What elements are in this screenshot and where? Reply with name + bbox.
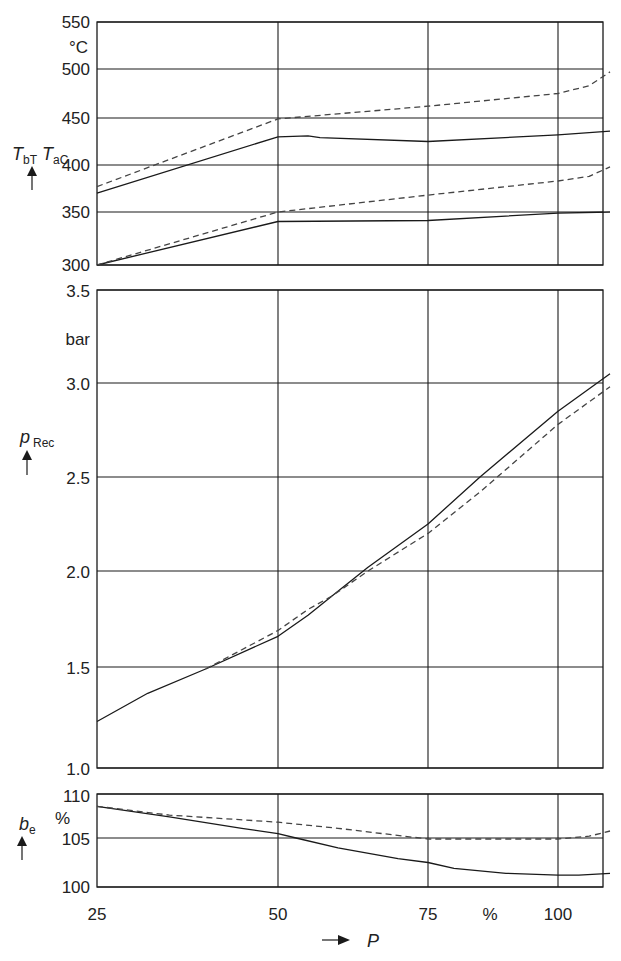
pressure-unit-label: bar (65, 330, 90, 349)
series-line-solid (97, 806, 610, 875)
be-axis-label: be (19, 814, 36, 837)
series-line-dashed (206, 387, 610, 669)
pressure-panel: 3.5 bar 3.0 2.5 2.0 1.5 1.0 pRec (19, 282, 610, 779)
y-tick-300: 300 (62, 256, 90, 275)
arrow-up-icon (17, 836, 27, 860)
temp-unit-label: °C (69, 38, 88, 57)
x-tick-75: 75 (419, 905, 438, 924)
y-tick-350: 350 (62, 203, 90, 222)
pressure-plot-area (97, 290, 610, 768)
y-tick-450: 450 (62, 109, 90, 128)
y-tick-110: 110 (63, 787, 90, 806)
series-line-solid (97, 212, 610, 265)
y-tick-1.5: 1.5 (66, 659, 90, 678)
arrow-right-icon (322, 935, 350, 945)
y-tick-500: 500 (62, 60, 90, 79)
y-tick-100: 100 (62, 878, 90, 897)
svg-text:TbT TaC: TbT TaC (12, 144, 69, 167)
series-line-solid (97, 374, 610, 722)
fuel-consumption-panel: 110 % 105 100 be 25 50 75 % 100 P (17, 787, 610, 951)
arrow-up-icon (27, 166, 37, 190)
plot-frame (97, 22, 603, 265)
y-tick-2.0: 2.0 (66, 563, 90, 582)
arrow-up-icon (22, 450, 32, 475)
y-tick-3.0: 3.0 (66, 375, 90, 394)
y-tick-105: 105 (62, 830, 90, 849)
x-axis-label: P (367, 931, 379, 951)
series-line-dashed (97, 806, 610, 839)
temperature-plot-area (97, 22, 610, 265)
pressure-axis-label: pRec (19, 427, 54, 450)
fuel-consumption-plot-area (97, 794, 610, 887)
x-tick-100: 100 (544, 905, 572, 924)
plot-frame (97, 794, 603, 887)
y-tick-550: 550 (62, 13, 90, 32)
line-chart: 550 °C 500 450 400 350 300 TbT TaC 3.5 b… (0, 0, 621, 961)
x-tick-25: 25 (88, 905, 107, 924)
x-tick-50: 50 (269, 905, 288, 924)
series-line-dashed (97, 167, 610, 265)
temperature-panel: 550 °C 500 450 400 350 300 TbT TaC (12, 13, 610, 275)
plot-frame (97, 290, 603, 768)
y-tick-1.0: 1.0 (66, 760, 90, 779)
y-tick-2.5: 2.5 (66, 469, 90, 488)
be-unit-label: % (55, 809, 70, 828)
temperature-axis-label: TbT TaC (12, 144, 69, 167)
x-unit-label: % (482, 905, 497, 924)
y-tick-3.5: 3.5 (66, 282, 90, 301)
